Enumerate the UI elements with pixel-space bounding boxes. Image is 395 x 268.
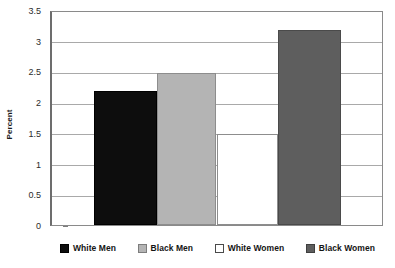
black-swatch-icon (60, 244, 69, 253)
chart-legend: White Men Black Men White Women Black Wo… (50, 240, 383, 256)
light-gray-swatch-icon (138, 244, 147, 253)
y-tick-label: 3 (14, 37, 41, 46)
legend-label: Black Women (319, 243, 375, 253)
y-tick-mark (63, 226, 68, 227)
y-tick-label: 0.5 (14, 191, 41, 200)
y-tick-label: 1.5 (14, 129, 41, 138)
bar-white-women[interactable] (217, 134, 278, 225)
y-tick-label: 2 (14, 99, 41, 108)
bar-black-women[interactable] (278, 30, 341, 225)
y-axis-title-label: Percent (5, 109, 14, 139)
legend-entry-white-women[interactable]: White Women (215, 243, 285, 253)
legend-entry-white-men[interactable]: White Men (60, 243, 116, 253)
y-axis-tick-labels: 3.5 3 2.5 2 1.5 1 0.5 0 (18, 11, 45, 226)
legend-entry-black-women[interactable]: Black Women (306, 243, 375, 253)
legend-entry-black-men[interactable]: Black Men (138, 243, 194, 253)
bar-chart-figure: Percent 3.5 3 2.5 2 1.5 1 0.5 0 (0, 0, 395, 268)
y-tick-label: 3.5 (14, 7, 41, 16)
bars-layer (52, 12, 382, 225)
bar-black-men[interactable] (157, 73, 216, 225)
legend-label: White Men (73, 243, 116, 253)
y-tick-label: 2.5 (14, 68, 41, 77)
y-tick-label: 0 (14, 222, 41, 231)
dark-gray-swatch-icon (306, 244, 315, 253)
plot-area (50, 11, 383, 226)
legend-label: Black Men (151, 243, 194, 253)
legend-label: White Women (228, 243, 285, 253)
y-tick-label: 1 (14, 160, 41, 169)
white-swatch-icon (215, 244, 224, 253)
bar-white-men[interactable] (94, 91, 157, 225)
